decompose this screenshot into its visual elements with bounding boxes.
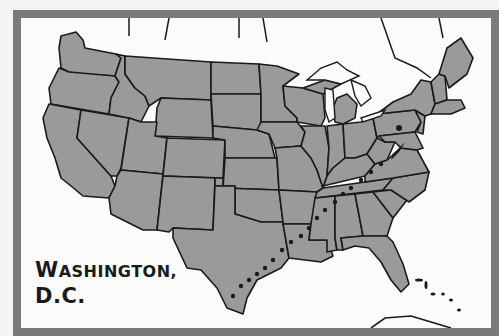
lake-michigan xyxy=(325,88,335,122)
state-new-mexico xyxy=(157,176,215,232)
state-washington xyxy=(59,32,121,76)
state-florida xyxy=(341,236,409,292)
state-new-york xyxy=(377,80,435,116)
state-south-dakota xyxy=(211,94,261,130)
label-line-1: WASHINGTON, xyxy=(35,258,177,284)
state-colorado xyxy=(163,138,225,178)
label-rest: ASHINGTON, xyxy=(59,262,177,281)
label-initial: W xyxy=(35,258,59,282)
map-frame: WASHINGTON, D.C. xyxy=(13,10,499,336)
label-line-2: D.C. xyxy=(35,284,177,308)
state-vermont-new-hampshire xyxy=(431,74,447,104)
state-arizona xyxy=(109,170,163,230)
map-label: WASHINGTON, D.C. xyxy=(35,258,177,308)
state-wyoming xyxy=(155,98,213,138)
state-north-dakota xyxy=(211,62,261,94)
cuba-outline xyxy=(371,316,451,328)
